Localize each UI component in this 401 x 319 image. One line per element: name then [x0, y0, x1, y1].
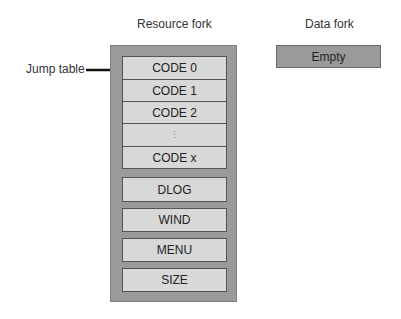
size-label: SIZE [161, 273, 188, 287]
code-1-label: CODE 1 [152, 84, 197, 98]
wind-resource: WIND [122, 208, 227, 232]
size-resource: SIZE [122, 268, 227, 292]
code-1-segment: CODE 1 [123, 80, 226, 102]
menu-label: MENU [157, 243, 192, 257]
jump-table-label: Jump table [26, 62, 85, 76]
code-0-segment: CODE 0 [123, 57, 226, 80]
data-fork-empty-label: Empty [311, 50, 345, 64]
code-x-segment: CODE x [123, 147, 226, 168]
wind-label: WIND [159, 213, 191, 227]
code-2-label: CODE 2 [152, 106, 197, 120]
code-0-label: CODE 0 [152, 61, 197, 75]
code-2-segment: CODE 2 [123, 102, 226, 124]
code-x-label: CODE x [152, 151, 196, 165]
dlog-label: DLOG [157, 183, 191, 197]
data-fork-title: Data fork [305, 17, 354, 31]
vertical-ellipsis-icon: ⋮ [170, 133, 179, 138]
dlog-resource: DLOG [122, 177, 227, 202]
menu-resource: MENU [122, 238, 227, 262]
code-segment-stack: CODE 0 CODE 1 CODE 2 ⋮ CODE x [122, 56, 227, 169]
data-fork-box: Empty [276, 45, 381, 68]
resource-fork-title: Resource fork [137, 17, 212, 31]
ellipsis-segment: ⋮ [123, 124, 226, 147]
